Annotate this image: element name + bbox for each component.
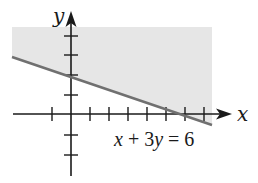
shaded-region	[12, 27, 212, 124]
equation-label: x + 3y = 6	[113, 128, 194, 151]
x-axis-label: x	[237, 102, 248, 126]
inequality-graph: y x x + 3y = 6	[0, 0, 258, 183]
y-axis-label: y	[52, 4, 65, 28]
